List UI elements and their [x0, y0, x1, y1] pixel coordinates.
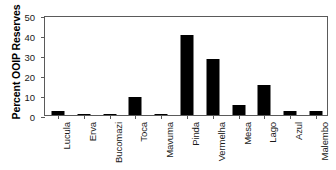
x-axis-tick-mark	[187, 115, 188, 119]
bar-slot	[303, 17, 329, 115]
bar-chart-figure: Percent OOIP Reserves 01020304050 Lucula…	[0, 0, 336, 170]
y-axis-tick-label: 50	[1, 12, 35, 23]
bar-slot	[252, 17, 278, 115]
bar-slot	[122, 17, 148, 115]
bar-slot	[71, 17, 97, 115]
bar	[129, 97, 142, 115]
bar-series	[45, 17, 327, 115]
x-axis-tick-mark	[161, 115, 162, 119]
x-axis-tick-label: Toca	[138, 122, 149, 170]
bar-slot	[148, 17, 174, 115]
y-axis-tick-label: 20	[1, 72, 35, 83]
x-axis-tick-label: Malembo	[319, 122, 330, 170]
x-axis-tick-mark	[135, 115, 136, 119]
x-axis-tick-mark	[264, 115, 265, 119]
x-axis-tick-label: Vermelha	[216, 122, 227, 170]
x-axis-tick-mark	[316, 115, 317, 119]
x-axis-tick-mark	[239, 115, 240, 119]
bar-slot	[97, 17, 123, 115]
bar	[180, 35, 193, 115]
x-axis-tick-label: Azul	[293, 122, 304, 170]
bar	[258, 85, 271, 115]
x-axis-tick-mark	[290, 115, 291, 119]
x-axis-tick-mark	[213, 115, 214, 119]
y-axis-tick-mark	[41, 117, 45, 118]
y-axis-tick-label: 30	[1, 52, 35, 63]
x-axis-tick-label: Mavuma	[164, 122, 175, 170]
x-axis-tick-mark	[84, 115, 85, 119]
bar-slot	[277, 17, 303, 115]
x-axis-tick-label: Lucula	[61, 122, 72, 170]
x-axis-tick-label: Mesa	[242, 122, 253, 170]
bar-slot	[174, 17, 200, 115]
x-axis-tick-label: Erva	[87, 122, 98, 170]
bar-slot	[200, 17, 226, 115]
x-axis-tick-mark	[58, 115, 59, 119]
y-axis-tick-label: 40	[1, 32, 35, 43]
x-axis-tick-label: Bucomazi	[113, 122, 124, 170]
y-axis-tick-label: 10	[1, 92, 35, 103]
bar-slot	[226, 17, 252, 115]
plot-area: 01020304050	[44, 16, 328, 116]
x-axis-tick-label: Lago	[267, 122, 278, 170]
bar	[232, 105, 245, 115]
x-axis-tick-mark	[110, 115, 111, 119]
x-axis-tick-labels: LuculaErvaBucomaziTocaMavumaPindaVermelh…	[44, 122, 328, 170]
bar	[206, 59, 219, 115]
bar-slot	[45, 17, 71, 115]
y-axis-tick-label: 0	[1, 112, 35, 123]
x-axis-tick-label: Pinda	[190, 122, 201, 170]
